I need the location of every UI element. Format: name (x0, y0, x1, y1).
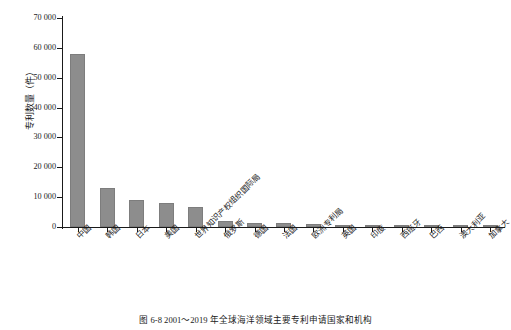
bar-slot (358, 18, 387, 227)
x-axis-tick (461, 228, 462, 232)
x-axis-tick (78, 228, 79, 232)
y-axis-tick-label: 0 (4, 223, 56, 231)
x-axis-tick (166, 228, 167, 232)
bar-slot (269, 18, 298, 227)
bar-slot (328, 18, 357, 227)
y-axis-tick (57, 137, 62, 138)
y-axis-tick (57, 18, 62, 19)
y-axis-tick (57, 78, 62, 79)
bar-slot (151, 18, 180, 227)
bar-slot (476, 18, 505, 227)
x-axis-tick (255, 228, 256, 232)
bar-series (63, 18, 505, 227)
bar (100, 188, 115, 227)
bar (70, 54, 85, 227)
x-axis-tick (402, 228, 403, 232)
bar-slot (63, 18, 92, 227)
bar-slot (387, 18, 416, 227)
figure-container: 010 00020 00030 00040 00050 00060 00070 … (0, 0, 511, 330)
y-axis-tick (57, 197, 62, 198)
x-axis-tick (372, 228, 373, 232)
x-axis-tick (137, 228, 138, 232)
y-axis-tick-label: 10 000 (4, 193, 56, 201)
x-axis-tick (284, 228, 285, 232)
y-axis-tick (57, 48, 62, 49)
bar-slot (181, 18, 210, 227)
bar-slot (122, 18, 151, 227)
y-axis-title: 专利数量（件） (23, 44, 36, 154)
x-axis-tick (343, 228, 344, 232)
bar-slot (92, 18, 121, 227)
y-axis-tick (57, 227, 62, 228)
x-axis-tick (225, 228, 226, 232)
bar-slot (299, 18, 328, 227)
x-axis-tick (431, 228, 432, 232)
bar-slot (417, 18, 446, 227)
bar-slot (446, 18, 475, 227)
x-axis-tick (107, 228, 108, 232)
x-axis-tick (196, 228, 197, 232)
y-axis-tick-label: 70 000 (4, 14, 56, 22)
y-axis-tick (57, 167, 62, 168)
x-axis-tick (313, 228, 314, 232)
figure-caption: 图 6-8 2001～2019 年全球海洋领域主要专利申请国家和机构 (0, 313, 511, 325)
x-axis-tick (490, 228, 491, 232)
y-axis-tick-label: 20 000 (4, 163, 56, 171)
y-axis-tick (57, 108, 62, 109)
